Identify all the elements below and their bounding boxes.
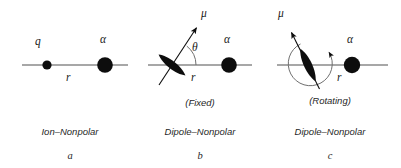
figure-container: q α r μ θ α r (Fixed) μ α r (Rotating) I… xyxy=(0,0,401,168)
diagram-canvas xyxy=(0,0,401,168)
panel-b-nonpolar-sphere xyxy=(221,57,237,73)
panel-b-polarizability-label: α xyxy=(224,34,230,46)
panel-a-distance-label: r xyxy=(66,72,70,84)
panel-a-letter: a xyxy=(20,151,120,162)
panel-c-distance-label: r xyxy=(337,72,341,84)
panel-a-nonpolar-sphere xyxy=(97,57,113,73)
panel-c-state-note: (Rotating) xyxy=(280,96,380,106)
panel-c-caption: Dipole–Nonpolar xyxy=(280,127,380,137)
panel-a-graphics xyxy=(22,57,128,73)
panel-a-polarizability-label: α xyxy=(100,34,106,46)
panel-c-polarizability-label: α xyxy=(347,34,353,46)
panel-b-angle-label: θ xyxy=(192,42,198,54)
panel-b-letter: b xyxy=(150,151,250,162)
panel-c-graphics xyxy=(277,33,388,90)
panel-c-letter: c xyxy=(280,151,380,162)
panel-a-charge-label: q xyxy=(35,36,41,48)
panel-b-moment-label: μ xyxy=(201,8,207,20)
panel-b-distance-label: r xyxy=(191,72,195,84)
panel-a-caption: Ion–Nonpolar xyxy=(20,127,120,137)
panel-c-nonpolar-sphere xyxy=(344,57,360,73)
panel-b-graphics xyxy=(148,28,252,85)
panel-b-caption: Dipole–Nonpolar xyxy=(150,127,250,137)
panel-a-ion-dot xyxy=(42,60,51,69)
panel-b-state-note: (Fixed) xyxy=(150,98,250,108)
panel-c-moment-label: μ xyxy=(278,8,284,20)
